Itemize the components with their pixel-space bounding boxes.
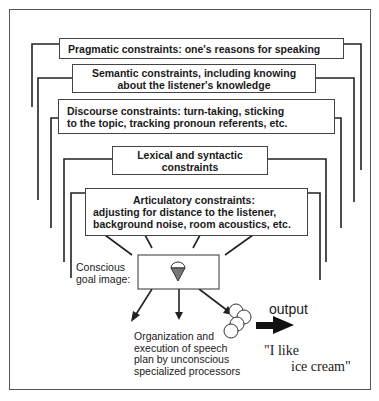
articulatory-constraints-box: Articulatory constraints: adjusting for … — [85, 188, 308, 236]
semantic-constraints-box: Semantic constraints, including knowing … — [72, 64, 316, 93]
utterance-line2: ice cream" — [264, 359, 351, 375]
articulatory-text-2: adjusting for distance to the listener, — [93, 206, 307, 218]
pragmatic-text: Pragmatic constraints: one's reasons for… — [68, 43, 343, 55]
lexical-constraints-box: Lexical and syntactic constraints — [112, 146, 268, 175]
pragmatic-constraints-box: Pragmatic constraints: one's reasons for… — [59, 38, 344, 59]
articulatory-text-1: Articulatory constraints: — [93, 194, 307, 206]
output-label: output — [269, 301, 308, 317]
discourse-text-2: to the topic, tracking pronoun referents… — [67, 117, 334, 129]
lexical-text-2: constraints — [113, 161, 267, 173]
processors-line1: Organization and — [134, 331, 240, 343]
utterance-line1: "I like — [264, 343, 351, 359]
right-arrow-icon — [256, 316, 294, 334]
processors-line4: specialized processors — [134, 366, 240, 378]
discourse-text-1: Discourse constraints: turn-taking, stic… — [67, 105, 334, 117]
semantic-text-2: about the listener's knowledge — [73, 79, 315, 91]
discourse-constraints-box: Discourse constraints: turn-taking, stic… — [58, 99, 335, 134]
goal-image-label: Conscious goal image: — [76, 262, 130, 285]
goal-label-line2: goal image: — [76, 274, 130, 286]
lexical-text-1: Lexical and syntactic — [113, 149, 267, 161]
utterance-text: "I like ice cream" — [264, 343, 351, 375]
processors-line3: plan by unconscious — [134, 354, 240, 366]
semantic-text-1: Semantic constraints, including knowing — [73, 67, 315, 79]
processors-label: Organization and execution of speech pla… — [134, 331, 240, 377]
articulatory-text-3: background noise, room acoustics, etc. — [93, 218, 307, 230]
goal-label-line1: Conscious — [76, 262, 130, 274]
